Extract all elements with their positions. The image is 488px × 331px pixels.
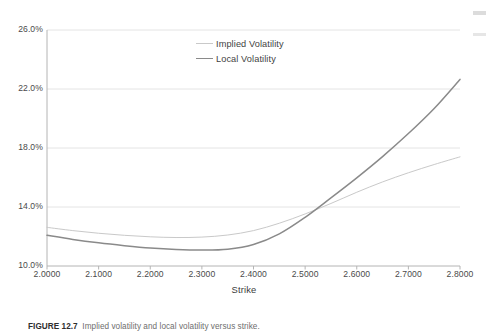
figure-caption: FIGURE 12.7 Implied volatility and local… xyxy=(28,322,468,331)
figure-caption-number: FIGURE 12.7 xyxy=(28,322,78,331)
x-tick-label: 2.8000 xyxy=(447,269,474,279)
legend-item-implied-volatility: Implied Volatility xyxy=(196,36,356,51)
legend-line-swatch-local xyxy=(196,58,213,60)
data-series xyxy=(47,79,460,250)
x-axis-title: Strike xyxy=(0,284,488,295)
legend-line-swatch-implied xyxy=(196,43,213,44)
series-line-implied-volatility xyxy=(47,157,460,238)
figure-root: 26.0%22.0%18.0%14.0%10.0% 2.00002.10002.… xyxy=(0,0,488,331)
chart-legend: Implied Volatility Local Volatility xyxy=(196,36,356,66)
legend-item-local-volatility: Local Volatility xyxy=(196,51,356,66)
x-tick-label: 2.6000 xyxy=(343,269,370,279)
x-axis-tick-labels: 2.00002.10002.20002.30002.40002.50002.60… xyxy=(0,269,488,285)
x-tick-label: 2.7000 xyxy=(395,269,422,279)
legend-label-local-volatility: Local Volatility xyxy=(216,54,276,64)
x-tick-label: 2.3000 xyxy=(188,269,215,279)
x-tick-label: 2.5000 xyxy=(292,269,319,279)
x-tick-label: 2.4000 xyxy=(240,269,267,279)
x-tick-label: 2.1000 xyxy=(85,269,112,279)
figure-caption-text: Implied volatility and local volatility … xyxy=(82,322,259,331)
page-edge-mark-top xyxy=(473,11,486,15)
x-tick-label: 2.0000 xyxy=(34,269,61,279)
x-tick-label: 2.2000 xyxy=(137,269,164,279)
legend-label-implied-volatility: Implied Volatility xyxy=(216,39,284,49)
series-line-local-volatility xyxy=(47,79,460,250)
page-edge-mark-bottom xyxy=(473,33,486,36)
volatility-chart: 26.0%22.0%18.0%14.0%10.0% 2.00002.10002.… xyxy=(0,0,488,300)
